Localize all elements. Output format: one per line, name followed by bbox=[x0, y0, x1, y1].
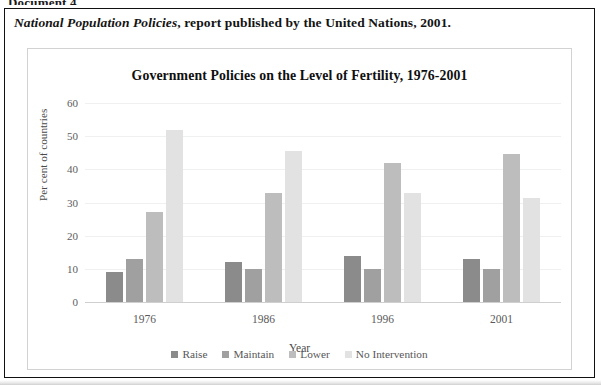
y-axis-tick: 40 bbox=[67, 163, 78, 175]
legend-swatch-icon bbox=[345, 351, 352, 358]
x-axis-tick: 1996 bbox=[371, 313, 394, 325]
chart-legend: RaiseMaintainLowerNo Intervention bbox=[28, 348, 571, 360]
bar[interactable] bbox=[265, 193, 282, 302]
scan-artifact bbox=[0, 380, 601, 385]
document-heading: Document 4 bbox=[8, 0, 77, 5]
legend-item[interactable]: Raise bbox=[171, 348, 207, 360]
bar[interactable] bbox=[483, 269, 500, 302]
legend-item[interactable]: No Intervention bbox=[345, 348, 428, 360]
y-axis-tick: 30 bbox=[67, 197, 78, 209]
legend-label: Raise bbox=[182, 348, 207, 360]
bar[interactable] bbox=[463, 259, 480, 302]
bar[interactable] bbox=[245, 269, 262, 302]
bar[interactable] bbox=[225, 262, 242, 302]
bar[interactable] bbox=[503, 154, 520, 302]
bar-group: 1976 bbox=[85, 103, 204, 302]
legend-label: Maintain bbox=[233, 348, 274, 360]
chart-title: Government Policies on the Level of Fert… bbox=[28, 68, 571, 84]
y-axis-tick: 0 bbox=[73, 296, 79, 308]
x-axis-tick: 1986 bbox=[252, 313, 275, 325]
y-axis-tick: 10 bbox=[67, 263, 78, 275]
y-axis-tick: 50 bbox=[67, 130, 78, 142]
bar[interactable] bbox=[523, 198, 540, 302]
bar[interactable] bbox=[285, 151, 302, 302]
bar[interactable] bbox=[126, 259, 143, 302]
chart-container: Government Policies on the Level of Fert… bbox=[27, 48, 572, 370]
y-axis-label: Per cent of countries bbox=[37, 109, 49, 201]
bar[interactable] bbox=[344, 256, 361, 302]
document-frame: National Population Policies, report pub… bbox=[4, 8, 595, 378]
bar[interactable] bbox=[404, 193, 421, 302]
legend-label: Lower bbox=[300, 348, 329, 360]
y-axis-tick: 60 bbox=[67, 97, 78, 109]
bar-group: 1996 bbox=[323, 103, 442, 302]
bar[interactable] bbox=[106, 272, 123, 302]
legend-swatch-icon bbox=[171, 351, 178, 358]
legend-swatch-icon bbox=[222, 351, 229, 358]
source-title: National Population Policies bbox=[14, 15, 177, 30]
legend-label: No Intervention bbox=[356, 348, 428, 360]
y-axis-tick: 20 bbox=[67, 230, 78, 242]
bar[interactable] bbox=[166, 130, 183, 302]
bar[interactable] bbox=[146, 212, 163, 302]
bar-group: 2001 bbox=[442, 103, 561, 302]
bar-group: 1986 bbox=[204, 103, 323, 302]
x-axis-tick: 2001 bbox=[490, 313, 513, 325]
x-axis-line bbox=[85, 302, 561, 303]
bar[interactable] bbox=[364, 269, 381, 302]
source-citation: National Population Policies, report pub… bbox=[14, 15, 451, 31]
x-axis-tick: 1976 bbox=[133, 313, 156, 325]
legend-item[interactable]: Maintain bbox=[222, 348, 274, 360]
source-attribution: , report published by the United Nations… bbox=[177, 15, 451, 30]
legend-item[interactable]: Lower bbox=[289, 348, 329, 360]
bar[interactable] bbox=[384, 163, 401, 302]
legend-swatch-icon bbox=[289, 351, 296, 358]
plot-area: 01020304050601976198619962001 bbox=[85, 103, 561, 302]
